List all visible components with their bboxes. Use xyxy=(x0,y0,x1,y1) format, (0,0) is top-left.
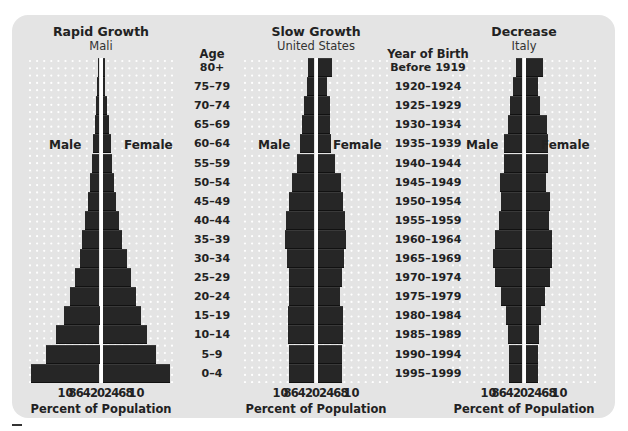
bar-male xyxy=(509,364,522,383)
birth-year-label: 1990–1994 xyxy=(378,345,478,364)
female-label: Female xyxy=(124,138,173,152)
age-group-label: 15–19 xyxy=(182,306,242,325)
bar-female xyxy=(103,96,107,115)
female-label: Female xyxy=(333,138,382,152)
bar-male xyxy=(75,268,99,287)
chart-title: Decrease xyxy=(454,24,594,39)
bar-male xyxy=(510,96,523,115)
bar-male xyxy=(304,96,315,115)
age-group-label: 35–39 xyxy=(182,230,242,249)
bar-female xyxy=(103,58,105,77)
age-group-label: 65–69 xyxy=(182,115,242,134)
bar-female xyxy=(103,306,141,325)
bar-male xyxy=(82,230,99,249)
x-axis-ticks: 1086420246810 xyxy=(0,386,628,402)
age-group-label: 60–64 xyxy=(182,134,242,153)
bar-male xyxy=(85,211,99,230)
bar-female xyxy=(103,268,131,287)
birth-year-label: 1935–1939 xyxy=(378,134,478,153)
age-group-label: 70–74 xyxy=(182,96,242,115)
bar-female xyxy=(318,325,344,344)
birth-year-label: 1995–1999 xyxy=(378,364,478,383)
chart-subtitle: Mali xyxy=(31,39,171,53)
center-axis-line xyxy=(315,58,318,383)
bar-male xyxy=(88,192,99,211)
bar-male xyxy=(80,249,100,268)
bar-male xyxy=(285,230,314,249)
bar-male xyxy=(501,192,522,211)
bar-female xyxy=(526,306,542,325)
x-axis-label: Percent of Population xyxy=(444,402,604,416)
bar-male xyxy=(288,306,315,325)
bar-female xyxy=(318,268,342,287)
bar-male xyxy=(509,345,522,364)
bar-male xyxy=(493,249,523,268)
chart-title: Slow Growth xyxy=(246,24,386,39)
bar-male xyxy=(501,287,522,306)
bar-male xyxy=(286,211,314,230)
bar-female xyxy=(318,211,346,230)
bar-female xyxy=(526,249,552,268)
bar-female xyxy=(526,192,551,211)
birth-year-label: 1975–1979 xyxy=(378,287,478,306)
bar-male xyxy=(297,154,314,173)
birth-year-label: 1985–1989 xyxy=(378,325,478,344)
page-mark xyxy=(12,424,22,426)
birth-year-label: 1955–1959 xyxy=(378,211,478,230)
birth-year-label: 1920–1924 xyxy=(378,77,478,96)
birth-year-label: 1950–1954 xyxy=(378,192,478,211)
male-label: Male xyxy=(258,138,290,152)
bar-female xyxy=(526,364,538,383)
bar-female xyxy=(103,287,136,306)
age-group-label: 55–59 xyxy=(182,154,242,173)
bar-male xyxy=(504,134,522,153)
birth-year-label: Before 1919 xyxy=(378,58,478,77)
bar-female xyxy=(526,173,547,192)
age-group-label: 75–79 xyxy=(182,77,242,96)
bar-female xyxy=(526,230,552,249)
birth-year-label: 1970–1974 xyxy=(378,268,478,287)
bar-male xyxy=(500,173,522,192)
bar-female xyxy=(526,58,543,77)
birth-year-label: 1960–1964 xyxy=(378,230,478,249)
bar-male xyxy=(495,268,523,287)
bar-female xyxy=(318,192,344,211)
bar-female xyxy=(318,364,342,383)
bar-male xyxy=(46,345,99,364)
bar-female xyxy=(526,268,551,287)
bar-female xyxy=(103,77,106,96)
female-label: Female xyxy=(541,138,590,152)
bar-male xyxy=(70,287,100,306)
x-axis-label: Percent of Population xyxy=(236,402,396,416)
bar-female xyxy=(318,58,332,77)
age-group-label: 20–24 xyxy=(182,287,242,306)
birth-year-label: 1945–1949 xyxy=(378,173,478,192)
bar-male xyxy=(289,364,315,383)
bar-male xyxy=(508,325,522,344)
bar-female xyxy=(318,230,346,249)
bar-female xyxy=(318,306,344,325)
bar-male xyxy=(287,249,315,268)
x-axis-label: Percent of Population xyxy=(21,402,181,416)
age-group-label: 0–4 xyxy=(182,364,242,383)
bar-male xyxy=(302,115,314,134)
bar-male xyxy=(513,77,523,96)
bar-female xyxy=(526,211,549,230)
bar-female xyxy=(103,364,170,383)
bar-female xyxy=(318,287,341,306)
bar-female xyxy=(526,154,548,173)
bar-female xyxy=(103,249,127,268)
bar-female xyxy=(318,134,331,153)
x-tick-label: 10 xyxy=(551,386,567,400)
bar-female xyxy=(103,115,109,134)
bar-female xyxy=(318,115,331,134)
bar-female xyxy=(103,134,112,153)
bar-female xyxy=(318,77,328,96)
bar-female xyxy=(318,345,343,364)
bar-female xyxy=(526,345,539,364)
bar-female xyxy=(103,230,123,249)
bar-female xyxy=(103,173,114,192)
age-group-label: 40–44 xyxy=(182,211,242,230)
bar-male xyxy=(289,192,315,211)
bar-male xyxy=(292,173,315,192)
